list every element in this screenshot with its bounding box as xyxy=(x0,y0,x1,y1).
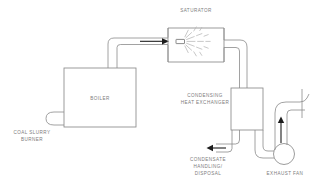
heat-exchanger-label-line2: HEAT EXCHANGER xyxy=(181,100,230,105)
saturator xyxy=(168,27,224,62)
duct-wall-inner xyxy=(117,45,168,69)
condensate-duct-outer xyxy=(216,130,232,152)
duct-hx-fan-outer xyxy=(263,130,274,151)
flow-saturator-to-heat-exchanger xyxy=(224,40,247,88)
coal-slurry-burner: COAL SLURRY BURNER xyxy=(13,112,64,142)
duct-hx-fan-inner xyxy=(255,130,274,158)
burner-label-line2: BURNER xyxy=(21,137,43,142)
boiler-label: BOILER xyxy=(90,96,110,101)
exhaust-fan-body xyxy=(274,144,295,165)
burner-loop-icon xyxy=(46,112,64,125)
process-flow-diagram: SATURATOR BOILER COAL SLURRY BURNER COND… xyxy=(0,0,324,188)
condensate-duct-inner xyxy=(216,130,240,144)
condensate-label-line2: HANDLING/ xyxy=(193,164,222,169)
spray-pattern-icon xyxy=(185,27,210,56)
flow-boiler-to-saturator xyxy=(108,38,169,68)
condensing-heat-exchanger: CONDENSING HEAT EXCHANGER xyxy=(181,88,263,130)
heat-exchanger-label-line1: CONDENSING xyxy=(187,93,223,98)
flow-arrow-stack xyxy=(278,117,284,144)
heat-exchanger-body xyxy=(231,88,263,130)
burner-label-line1: COAL SLURRY xyxy=(13,130,50,135)
spray-nozzle-icon xyxy=(176,39,185,43)
exhaust-fan: EXHAUST FAN xyxy=(267,144,304,177)
boiler: BOILER xyxy=(64,68,136,127)
diagram-canvas: SATURATOR BOILER COAL SLURRY BURNER COND… xyxy=(0,0,324,188)
flow-arrow-boiler-saturator xyxy=(140,38,169,44)
flow-arrow-condensate xyxy=(207,145,227,151)
condensate-label-line3: DISPOSAL xyxy=(195,171,222,176)
saturator-body xyxy=(168,28,224,62)
flow-heat-exchanger-to-exhaust-fan xyxy=(255,130,274,158)
exhaust-fan-label: EXHAUST FAN xyxy=(267,171,304,176)
condensate-label-line1: CONDENSATE xyxy=(190,157,226,162)
flow-heat-exchanger-to-condensate: CONDENSATE HANDLING/ DISPOSAL xyxy=(190,130,240,176)
duct-sat-hx-inner xyxy=(224,48,240,89)
stack xyxy=(275,89,309,150)
saturator-label: SATURATOR xyxy=(180,8,212,13)
